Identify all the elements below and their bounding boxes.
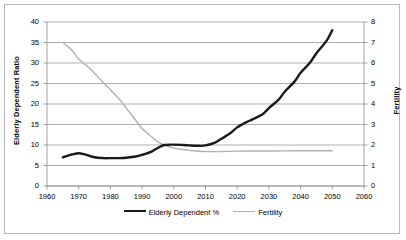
y-tick-label-left: 0 [15, 181, 39, 190]
y-tick-label-left: 35 [15, 38, 39, 47]
x-tick-label: 2040 [284, 192, 318, 201]
series-line-fertility [63, 43, 332, 152]
x-tick-label: 2020 [220, 192, 254, 201]
y-tick-label-left: 30 [15, 58, 39, 67]
dual-axis-line-chart [0, 0, 406, 240]
y-axis-left-ticks [44, 22, 48, 186]
legend-label: Elderly Dependent % [149, 208, 219, 217]
x-tick-label: 1990 [125, 192, 159, 201]
y-tick-label-left: 10 [15, 140, 39, 149]
y-tick-label-left: 40 [15, 17, 39, 26]
x-tick-label: 2050 [315, 192, 349, 201]
x-tick-label: 2000 [157, 192, 191, 201]
series-line-elderly-dependent [63, 30, 332, 158]
y-tick-label-left: 20 [15, 99, 39, 108]
x-tick-label: 2030 [252, 192, 286, 201]
y-tick-label-right: 4 [371, 99, 395, 108]
x-tick-label: 1960 [30, 192, 64, 201]
legend-swatch-black [124, 210, 146, 212]
y-tick-label-right: 6 [371, 58, 395, 67]
x-tick-label: 1970 [62, 192, 96, 201]
legend-label: Fertility [258, 208, 282, 217]
legend-item: Elderly Dependent % [124, 207, 219, 217]
x-tick-label: 2060 [347, 192, 381, 201]
chart-legend: Elderly Dependent %Fertility [0, 207, 406, 217]
y-tick-label-left: 15 [15, 120, 39, 129]
y-tick-label-right: 3 [371, 120, 395, 129]
x-tick-label: 2010 [189, 192, 223, 201]
y-tick-label-right: 8 [371, 17, 395, 26]
x-axis-ticks [47, 186, 364, 190]
legend-swatch-grey [233, 211, 255, 212]
y-tick-label-right: 5 [371, 79, 395, 88]
y-tick-label-right: 7 [371, 38, 395, 47]
y-tick-label-right: 0 [371, 181, 395, 190]
y-tick-label-right: 1 [371, 161, 395, 170]
y-axis-right-ticks [364, 22, 368, 186]
gridlines [47, 22, 364, 186]
y-tick-label-right: 2 [371, 140, 395, 149]
y-tick-label-left: 25 [15, 79, 39, 88]
x-tick-label: 1980 [93, 192, 127, 201]
legend-item: Fertility [233, 207, 282, 217]
y-tick-label-left: 5 [15, 161, 39, 170]
